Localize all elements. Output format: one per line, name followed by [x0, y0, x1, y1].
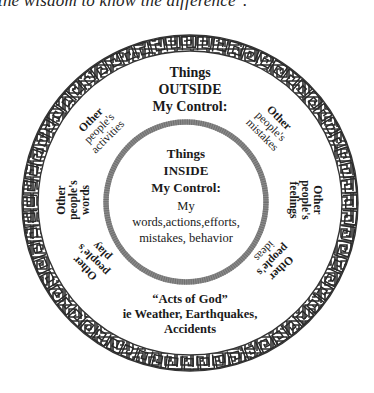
inside-control-title: Things INSIDE My Control:	[136, 145, 236, 196]
bottom-line1: “Acts of God”	[110, 292, 270, 307]
inner-body-line1: My	[116, 198, 256, 214]
acts-of-god-label: “Acts of God” ie Weather, Earthquakes, A…	[110, 292, 270, 337]
spoke-feelings: Other people's feelings	[288, 165, 324, 235]
inner-body-line2: words,actions,efforts,	[116, 214, 256, 230]
outer-title-line2: OUTSIDE	[140, 81, 240, 98]
spoke-line: people's	[67, 165, 79, 235]
inside-control-items: My words,actions,efforts, mistakes, beha…	[116, 198, 256, 246]
outer-title-line1: Things	[140, 64, 240, 81]
inner-body-line3: mistakes, behavior	[116, 230, 256, 246]
inner-title-line2: INSIDE	[136, 162, 236, 179]
spoke-line: feelings	[288, 165, 300, 235]
spoke-line: Other	[55, 165, 67, 235]
inner-title-line1: Things	[136, 145, 236, 162]
bottom-line3: Accidents	[110, 322, 270, 337]
spoke-line: Other	[312, 165, 324, 235]
spoke-line: words	[79, 165, 91, 235]
spoke-line: people's	[300, 165, 312, 235]
spoke-words: Other people's words	[55, 165, 91, 235]
inner-title-line3: My Control:	[136, 179, 236, 196]
bottom-line2: ie Weather, Earthquakes,	[110, 307, 270, 322]
outer-title-line3: My Control:	[140, 98, 240, 115]
outside-control-title: Things OUTSIDE My Control:	[140, 64, 240, 115]
